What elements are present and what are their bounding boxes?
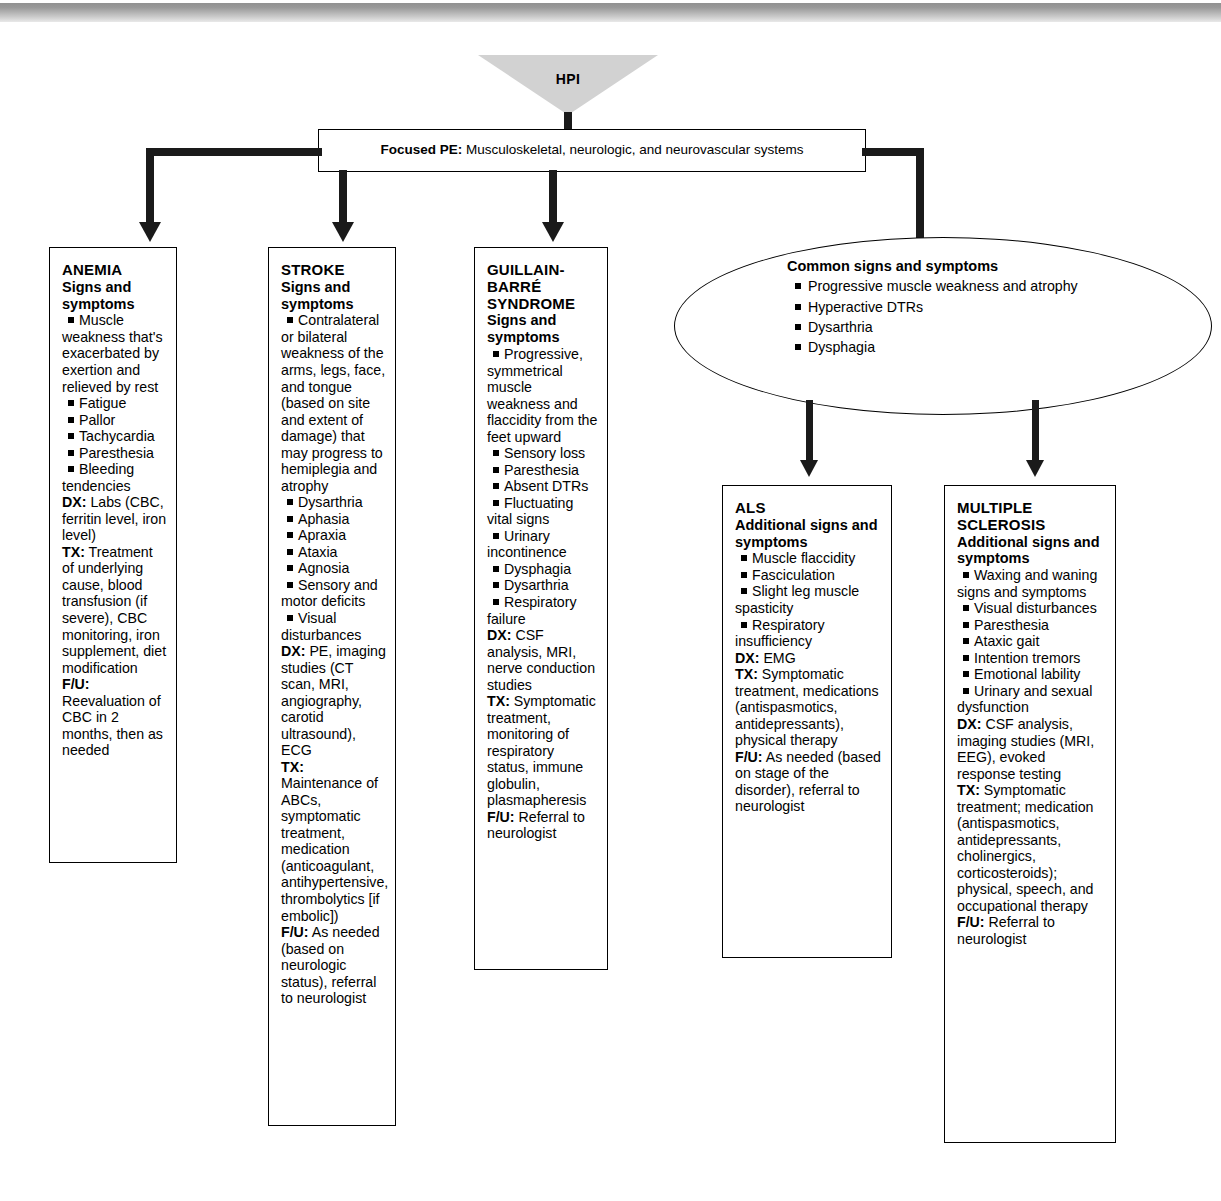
list-item: Sensory and motor deficits <box>281 577 386 610</box>
bullet-square-icon <box>287 532 293 538</box>
oval-to-ms-arrow <box>1026 460 1044 477</box>
bullet-square-icon <box>287 317 293 323</box>
list-item-label: Emotional lability <box>974 666 1080 682</box>
list-item: Progressive muscle weakness and atrophy <box>787 276 1187 296</box>
list-item-label: Slight leg muscle spasticity <box>735 583 859 616</box>
box-title: ANEMIA <box>62 262 167 279</box>
box-subtitle: Signs and symptoms <box>281 279 386 313</box>
list-item: Tachycardia <box>62 428 167 445</box>
field-row: F/U: Referral to neurologist <box>957 914 1106 947</box>
list-item: Dysarthria <box>787 317 1187 337</box>
list-item: Ataxic gait <box>957 633 1106 650</box>
list-item-label: Dysarthria <box>808 319 873 335</box>
bullet-square-icon <box>741 555 747 561</box>
bullet-square-icon <box>493 566 499 572</box>
common-signs-title: Common signs and symptoms <box>787 258 1187 275</box>
bullet-square-icon <box>287 499 293 505</box>
hpi-to-pe-connector <box>564 112 572 129</box>
bullet-square-icon <box>963 622 969 628</box>
field-row: TX: Symptomatic treatment; medication (a… <box>957 782 1106 914</box>
oval-to-ms-line <box>1032 400 1039 462</box>
box-subtitle: Signs and symptoms <box>487 312 598 346</box>
bullet-square-icon <box>68 400 74 406</box>
pe-to-stroke-line <box>339 170 347 224</box>
list-item-label: Dysphagia <box>808 339 875 355</box>
list-item: Visual disturbances <box>957 600 1106 617</box>
common-signs-content: Common signs and symptoms Progressive mu… <box>787 258 1187 357</box>
field-row: DX: EMG <box>735 650 882 667</box>
common-signs-list: Progressive muscle weakness and atrophy … <box>787 276 1187 357</box>
bullet-square-icon <box>287 565 293 571</box>
field-row: F/U: As needed (based on neurologic stat… <box>281 924 386 1007</box>
bullet-square-icon <box>493 450 499 456</box>
list-item: Paresthesia <box>957 617 1106 634</box>
oval-to-als-arrow <box>800 460 818 477</box>
disorder-box-anemia: ANEMIA Signs and symptoms Muscle weaknes… <box>49 247 177 863</box>
list-item: Visual disturbances <box>281 610 386 643</box>
list-item-label: Apraxia <box>298 527 346 543</box>
field-row: DX: CSF analysis, MRI, nerve conduction … <box>487 627 598 693</box>
disorder-box-stroke: STROKE Signs and symptoms Contralateral … <box>268 247 396 1126</box>
field-label: F/U: <box>735 749 763 765</box>
list-item: Progressive, symmetrical muscle weakness… <box>487 346 598 445</box>
bullet-square-icon <box>795 304 801 310</box>
field-label: TX: <box>735 666 758 682</box>
bullet-square-icon <box>68 433 74 439</box>
field-label: F/U: <box>281 924 309 940</box>
list-item: Urinary and sexual dysfunction <box>957 683 1106 716</box>
bullet-square-icon <box>963 671 969 677</box>
list-item-label: Muscle weakness that's exacerbated by ex… <box>62 312 163 394</box>
bullet-square-icon <box>68 417 74 423</box>
bullet-square-icon <box>493 533 499 539</box>
list-item: Dysarthria <box>487 577 598 594</box>
box-body: Contralateral or bilateral weakness of t… <box>281 312 386 1006</box>
bullet-square-icon <box>287 582 293 588</box>
bullet-square-icon <box>287 615 293 621</box>
bullet-square-icon <box>493 500 499 506</box>
list-item: Paresthesia <box>62 445 167 462</box>
list-item: Aphasia <box>281 511 386 528</box>
pe-to-anemia-arrow <box>139 222 161 242</box>
list-item: Emotional lability <box>957 666 1106 683</box>
list-item: Agnosia <box>281 560 386 577</box>
field-label: DX: <box>735 650 759 666</box>
disorder-box-als: ALS Additional signs and symptoms Muscle… <box>722 485 892 958</box>
bullet-square-icon <box>963 572 969 578</box>
list-item-label: Fasciculation <box>752 567 835 583</box>
bullet-square-icon <box>493 582 499 588</box>
list-item-label: Respiratory insufficiency <box>735 617 825 650</box>
pe-left-bus <box>146 148 322 156</box>
list-item-label: Dysphagia <box>504 561 571 577</box>
list-item: Hyperactive DTRs <box>787 297 1187 317</box>
box-subtitle: Additional signs and symptoms <box>957 534 1106 568</box>
bullet-square-icon <box>493 351 499 357</box>
field-value: Reevaluation of CBC in 2 months, then as… <box>62 693 163 759</box>
list-item: Fluctuating vital signs <box>487 495 598 528</box>
list-item-label: Pallor <box>79 412 115 428</box>
box-title: ALS <box>735 500 882 517</box>
list-item-label: Progressive muscle weakness and atrophy <box>808 278 1078 294</box>
box-body: Muscle flaccidity Fasciculation Slight l… <box>735 550 882 815</box>
bullet-square-icon <box>68 466 74 472</box>
list-item-label: Paresthesia <box>974 617 1049 633</box>
field-label: TX: <box>957 782 980 798</box>
field-label: F/U: <box>957 914 985 930</box>
list-item-label: Hyperactive DTRs <box>808 299 923 315</box>
list-item: Contralateral or bilateral weakness of t… <box>281 312 386 494</box>
field-label: DX: <box>957 716 981 732</box>
pe-to-oval-line <box>916 148 924 245</box>
list-item-label: Absent DTRs <box>504 478 588 494</box>
list-item: Fasciculation <box>735 567 882 584</box>
list-item: Absent DTRs <box>487 478 598 495</box>
bullet-square-icon <box>493 483 499 489</box>
field-row: DX: CSF analysis, imaging studies (MRI, … <box>957 716 1106 782</box>
box-body: Waxing and waning signs and symptoms Vis… <box>957 567 1106 947</box>
disorder-box-multiple-sclerosis: MULTIPLE SCLEROSIS Additional signs and … <box>944 485 1116 1143</box>
list-item: Fatigue <box>62 395 167 412</box>
list-item-label: Aphasia <box>298 511 349 527</box>
bullet-square-icon <box>493 467 499 473</box>
field-row: F/U: Reevaluation of CBC in 2 months, th… <box>62 676 167 759</box>
box-title: MULTIPLE SCLEROSIS <box>957 500 1053 534</box>
hpi-label: HPI <box>478 71 658 87</box>
list-item: Pallor <box>62 412 167 429</box>
